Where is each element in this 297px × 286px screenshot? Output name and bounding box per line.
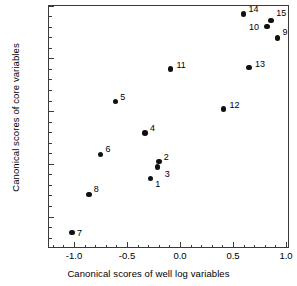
x-tick-label: -1.0 xyxy=(52,250,96,261)
data-point xyxy=(221,106,227,112)
data-point xyxy=(69,230,75,236)
x-tick-minor xyxy=(244,245,245,249)
y-tick-minor xyxy=(48,174,52,175)
x-tick-minor xyxy=(148,245,149,249)
x-tick-minor xyxy=(191,245,192,249)
y-tick-major xyxy=(48,164,54,165)
y-tick-minor xyxy=(48,238,52,239)
y-tick-major xyxy=(48,111,54,112)
y-axis-title: Canonical scores of core variables xyxy=(10,8,21,228)
data-point-label: 15 xyxy=(276,9,286,18)
x-tick-minor xyxy=(106,245,107,249)
x-tick-minor xyxy=(95,245,96,249)
data-point-label: 11 xyxy=(177,61,186,70)
x-tick-minor xyxy=(275,245,276,249)
data-point-label: 6 xyxy=(106,145,111,154)
x-tick-minor xyxy=(159,245,160,249)
data-point-label: 12 xyxy=(230,101,240,110)
x-tick-label: -0.5 xyxy=(105,250,149,261)
data-point xyxy=(268,18,274,24)
x-tick-major xyxy=(180,242,181,248)
x-tick-minor xyxy=(138,245,139,249)
data-point xyxy=(168,66,174,72)
x-tick-minor xyxy=(85,245,86,249)
data-point-label: 1 xyxy=(155,180,160,189)
y-tick-minor xyxy=(48,69,52,70)
data-point-label: 7 xyxy=(77,229,82,238)
data-point-label: 10 xyxy=(249,23,259,32)
y-tick-minor xyxy=(48,185,52,186)
x-tick-minor xyxy=(265,245,266,249)
x-tick-minor xyxy=(116,245,117,249)
x-tick-label: 0.0 xyxy=(158,250,202,261)
y-tick-minor xyxy=(48,16,52,17)
data-point-label: 13 xyxy=(255,60,265,69)
y-tick-minor xyxy=(48,195,52,196)
x-tick-major xyxy=(233,242,234,248)
x-tick-minor xyxy=(212,245,213,249)
y-tick-minor xyxy=(48,90,52,91)
data-point xyxy=(86,192,92,198)
data-point xyxy=(142,130,148,136)
y-tick-minor xyxy=(48,132,52,133)
y-tick-minor xyxy=(48,27,52,28)
scatter-plot-figure: -1.0-0.50.00.51.0-1.0-0.50.00.51.0 12345… xyxy=(0,0,297,286)
x-tick-minor xyxy=(53,245,54,249)
y-tick-major xyxy=(48,6,54,7)
x-axis-title: Canonical scores of well log variables xyxy=(0,268,297,279)
y-tick-minor xyxy=(48,48,52,49)
y-tick-minor xyxy=(48,122,52,123)
y-tick-minor xyxy=(48,37,52,38)
x-tick-major xyxy=(74,242,75,248)
y-tick-major xyxy=(48,58,54,59)
y-tick-minor xyxy=(48,79,52,80)
x-tick-label: 1.0 xyxy=(264,250,297,261)
data-point-label: 3 xyxy=(165,170,170,179)
x-tick-major xyxy=(127,242,128,248)
data-point-label: 5 xyxy=(120,93,125,102)
data-point-label: 9 xyxy=(283,28,288,37)
data-point-label: 14 xyxy=(249,5,259,14)
x-tick-minor xyxy=(169,245,170,249)
x-tick-minor xyxy=(63,245,64,249)
y-tick-minor xyxy=(48,101,52,102)
y-tick-minor xyxy=(48,206,52,207)
data-point xyxy=(241,11,247,17)
x-tick-label: 0.5 xyxy=(211,250,255,261)
data-point-label: 4 xyxy=(150,124,155,133)
plot-area xyxy=(48,5,289,248)
y-tick-minor xyxy=(48,153,52,154)
x-tick-major xyxy=(286,242,287,248)
x-tick-minor xyxy=(201,245,202,249)
data-point xyxy=(264,24,270,30)
data-point-label: 8 xyxy=(94,185,99,194)
y-tick-minor xyxy=(48,143,52,144)
y-tick-minor xyxy=(48,227,52,228)
data-point-label: 2 xyxy=(164,153,169,162)
x-tick-minor xyxy=(222,245,223,249)
y-tick-major xyxy=(48,217,54,218)
x-tick-minor xyxy=(254,245,255,249)
